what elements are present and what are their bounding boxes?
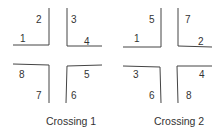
crossing-1-label-br-outer: 5 [84, 70, 90, 80]
crossing-2-caption: Crossing 2 [154, 115, 204, 127]
crossing-1-label-tl-outer: 1 [20, 34, 26, 44]
crossing-1-label-tr-inner: 3 [71, 15, 77, 25]
crossing-2-top-right-corner [178, 8, 212, 47]
crossing-2-label-tr-outer: 2 [198, 37, 204, 47]
crossing-2-label-tr-inner: 7 [185, 15, 191, 25]
crossing-2-bottom-left-corner [123, 66, 161, 103]
crossing-2-top-left-corner [123, 8, 161, 47]
crossing-2-bottom-right-corner [177, 66, 212, 103]
crossing-2-label-br-inner: 8 [186, 91, 192, 101]
crossing-1-caption: Crossing 1 [46, 115, 96, 127]
crossing-2-label-tl-inner: 5 [149, 15, 155, 25]
crossing-1-label-bl-inner: 7 [36, 91, 42, 101]
crossing-2-label-bl-outer: 3 [133, 70, 139, 80]
crossing-2-label-tl-outer: 1 [134, 34, 140, 44]
crossing-1-label-br-inner: 6 [71, 91, 77, 101]
crossing-1-label-bl-outer: 8 [19, 70, 25, 80]
crossing-2-label-bl-inner: 6 [149, 91, 155, 101]
crossing-2-label-br-outer: 4 [199, 70, 205, 80]
crossing-1-label-tr-outer: 4 [84, 37, 90, 47]
crossing-1-label-tl-inner: 2 [36, 15, 42, 25]
crossing-1-top-left-corner [13, 8, 49, 45]
